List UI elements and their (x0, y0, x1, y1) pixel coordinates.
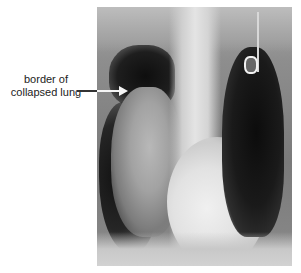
implanted-device (244, 56, 258, 74)
annotation-label-line1: border of (8, 73, 84, 86)
chest-xray-image (97, 7, 292, 266)
diaphragm (97, 232, 292, 266)
left-lung-air (222, 47, 284, 237)
annotation-arrow-inside (97, 90, 121, 92)
annotation-arrow-outside (77, 90, 97, 92)
arrow-head-icon (119, 86, 128, 96)
annotation-label-line2: collapsed lung (8, 86, 84, 99)
annotation-label: border of collapsed lung (8, 73, 84, 99)
